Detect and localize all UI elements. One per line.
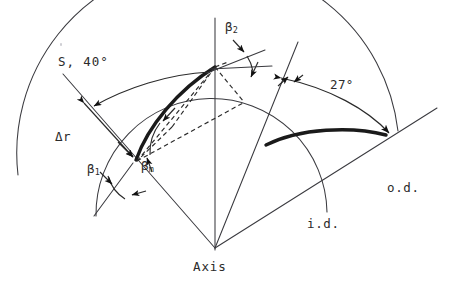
beta-2-tangent-line [207, 50, 265, 73]
beta-m-label: βm [141, 160, 154, 173]
beta-2-leader [233, 40, 244, 52]
outer-diameter-label: o.d. [387, 182, 420, 195]
beta-1-angle [94, 163, 146, 216]
tip-short-tick [215, 62, 228, 67]
inner-diameter-arc [96, 99, 327, 216]
beta-1-label: β1 [87, 163, 100, 176]
root-arrow-a [118, 142, 133, 157]
arc-span-markers [251, 62, 303, 86]
inner-diameter-label: i.d. [307, 218, 340, 231]
beta-m-symbol: β [141, 158, 149, 173]
axis-label: Axis [193, 261, 227, 274]
beta-m-subscript: m [149, 164, 154, 174]
beta-1-symbol: β [87, 161, 95, 176]
chord-root-to-offset [137, 103, 243, 161]
dashed-construction [137, 62, 244, 161]
beta-2-reference-line [210, 66, 272, 69]
scan-artifact-speck [60, 43, 62, 46]
stagger-dimension [94, 72, 210, 106]
beta-2-symbol: β [225, 19, 233, 34]
beta-1-counter-leader [132, 191, 146, 195]
span-marker-mid [294, 75, 303, 82]
chord-root-to-tip [137, 67, 215, 161]
beta-2-label: β2 [225, 21, 238, 34]
delta-r-label: Δr [55, 131, 71, 144]
beta-2-subscript: 2 [233, 25, 238, 35]
diagram-canvas: S, 40° Δr β1 βm β2 27° o.d. i.d. Axis [0, 0, 470, 288]
wrap-angle-label: 27° [330, 79, 354, 92]
beta-2-arc [247, 56, 253, 71]
parallelogram-upper-edge [215, 67, 244, 102]
diagram-drawing [0, 0, 470, 288]
stagger-arrow [94, 72, 210, 106]
diameter-arcs [17, 0, 398, 216]
stagger-angle-label: S, 40° [58, 56, 109, 69]
beta-1-subscript: 1 [95, 167, 100, 177]
span-marker-tip-left [251, 62, 258, 77]
blade-right [266, 130, 386, 145]
ray-middle-right [215, 42, 298, 248]
beta-2-angle [207, 40, 272, 73]
beta-1-arc [108, 176, 125, 199]
root-arrow-cluster [118, 142, 133, 157]
